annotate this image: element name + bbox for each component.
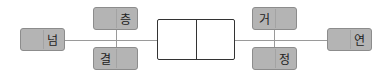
tile-label: 정: [279, 50, 290, 67]
tile-label: 거: [259, 10, 270, 27]
left-vertical-connector: [116, 30, 117, 47]
tile-label: 결: [100, 50, 111, 67]
answer-cell-2[interactable]: [196, 20, 235, 59]
tile-label: 넘: [47, 31, 58, 48]
tile-left-outer: 넘: [20, 28, 65, 51]
answer-cell-1[interactable]: [158, 20, 196, 59]
right-vertical-connector: [274, 30, 275, 47]
tile-right-top: 거: [252, 7, 297, 30]
tile-label: 층: [120, 10, 131, 27]
center-answer-box: [157, 19, 235, 60]
tile-left-bottom: 결: [93, 47, 138, 70]
tile-right-outer: 연: [327, 28, 372, 51]
tile-right-bottom: 정: [252, 47, 297, 70]
tile-label: 연: [354, 31, 365, 48]
tile-left-top: 층: [93, 7, 138, 30]
